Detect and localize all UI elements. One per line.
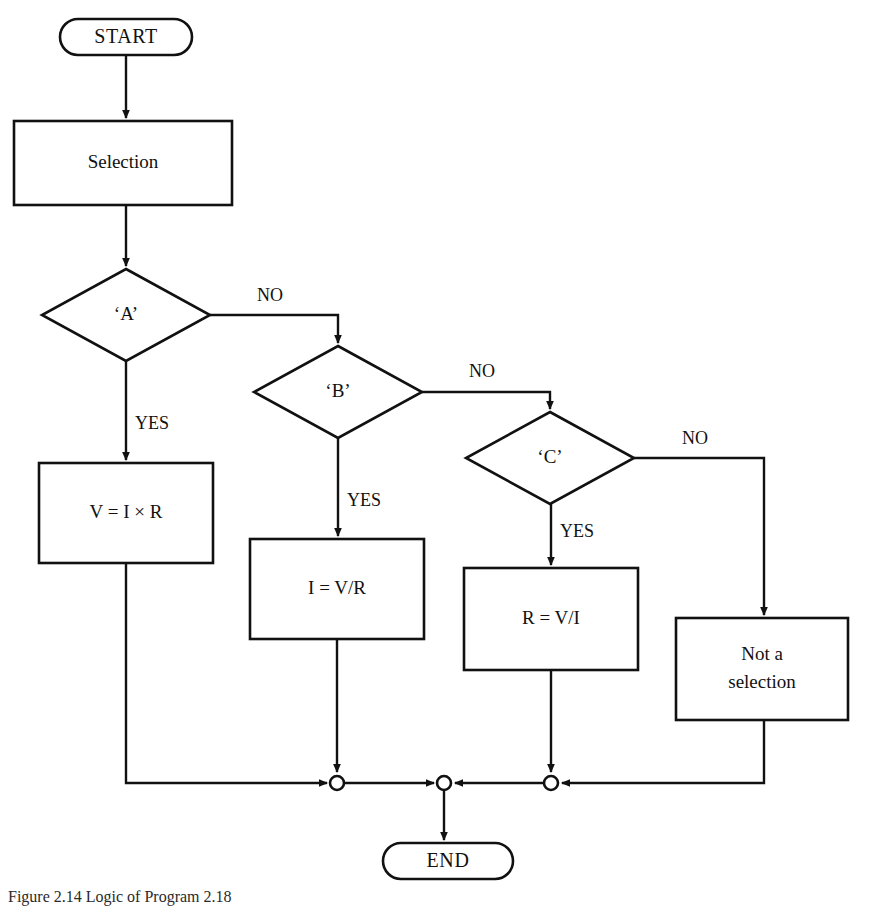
- start-label: START: [94, 25, 158, 47]
- decision-a-label: ‘A’: [114, 303, 138, 324]
- node-decision-b[interactable]: ‘B’: [254, 346, 422, 438]
- junction-node-2: [437, 776, 451, 790]
- edge-label-decision-b-no: NO: [469, 361, 495, 381]
- node-decision-c[interactable]: ‘C’: [466, 412, 634, 504]
- decision-c-label: ‘C’: [537, 446, 562, 467]
- node-process-resistance[interactable]: R = V/I: [464, 568, 638, 670]
- flowchart-canvas: START Selection ‘A’ ‘B’ ‘C’ V = I × R: [0, 0, 870, 907]
- junction-node-3: [544, 776, 558, 790]
- not-a-selection-label-line2: selection: [728, 671, 796, 692]
- not-a-selection-label-line1: Not a: [741, 643, 783, 664]
- process-current-label: I = V/R: [308, 577, 366, 598]
- edge-decision-a-no-to-decision-b: [210, 315, 338, 343]
- decision-b-label: ‘B’: [325, 380, 350, 401]
- process-resistance-label: R = V/I: [522, 607, 580, 628]
- node-end[interactable]: END: [383, 843, 513, 879]
- junction-node-1: [330, 776, 344, 790]
- edge-label-decision-c-yes: YES: [560, 521, 594, 541]
- edge-not-selection-to-junction-3: [562, 720, 764, 783]
- node-not-a-selection[interactable]: Not a selection: [676, 618, 848, 720]
- process-voltage-label: V = I × R: [90, 501, 163, 522]
- node-decision-a[interactable]: ‘A’: [42, 269, 210, 361]
- edge-decision-c-no-to-not-selection: [634, 458, 764, 615]
- edge-label-decision-c-no: NO: [682, 428, 708, 448]
- node-start[interactable]: START: [60, 19, 192, 55]
- edge-label-decision-b-yes: YES: [347, 490, 381, 510]
- edge-decision-b-no-to-decision-c: [422, 392, 550, 409]
- node-selection[interactable]: Selection: [14, 121, 232, 205]
- figure-caption: Figure 2.14 Logic of Program 2.18: [8, 888, 232, 906]
- node-process-voltage[interactable]: V = I × R: [39, 463, 213, 563]
- not-a-selection-shape: [676, 618, 848, 720]
- edge-label-decision-a-no: NO: [257, 285, 283, 305]
- flowchart-diagram: START Selection ‘A’ ‘B’ ‘C’ V = I × R: [0, 0, 870, 907]
- selection-label: Selection: [88, 151, 159, 172]
- end-label: END: [427, 849, 470, 871]
- edge-label-decision-a-yes: YES: [135, 413, 169, 433]
- node-process-current[interactable]: I = V/R: [250, 539, 424, 639]
